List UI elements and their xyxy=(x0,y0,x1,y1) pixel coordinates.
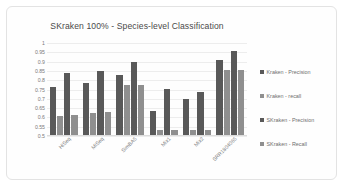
legend-label: SKraken - Precision xyxy=(267,117,315,123)
y-axis-tick-label: 0.5 xyxy=(38,134,45,139)
bar xyxy=(131,62,137,136)
bar-group xyxy=(180,43,213,136)
bar xyxy=(97,71,103,136)
chart-legend: Kraken - PrecisionKraken - recallSKraken… xyxy=(260,67,344,163)
y-axis-tick-label: 0.75 xyxy=(35,87,45,92)
legend-label: Kraken - Precision xyxy=(267,69,311,75)
y-axis-tick-label: 0.8 xyxy=(38,78,45,83)
x-axis-label-text: SRR1804065 xyxy=(211,136,238,163)
chart-title: SKraken 100% - Species-level Classificat… xyxy=(7,21,267,31)
bar xyxy=(216,60,222,136)
bar xyxy=(224,70,230,136)
bar xyxy=(238,70,244,136)
bar xyxy=(116,75,122,136)
bar-group xyxy=(114,43,147,136)
bar xyxy=(197,92,203,136)
y-axis-tick-label: 0.85 xyxy=(35,68,45,73)
x-axis-label-text: HiSeq xyxy=(57,136,71,150)
x-axis-category-labels: HiSeqMiSeqSimBA5Mix1Mix2SRR1804065 xyxy=(47,137,247,183)
bar-group xyxy=(147,43,180,136)
legend-item[interactable]: SKraken - Recall xyxy=(260,141,307,147)
legend-item[interactable]: SKraken - Precision xyxy=(260,117,314,123)
y-axis-tick-label: 0.6 xyxy=(38,115,45,120)
bar xyxy=(50,87,56,136)
legend-item[interactable]: Kraken - Precision xyxy=(260,69,311,75)
bar xyxy=(90,113,96,136)
y-axis-tick-label: 0.95 xyxy=(35,50,45,55)
y-axis-tick-label: 1 xyxy=(42,41,45,46)
legend-label: Kraken - recall xyxy=(267,93,302,99)
legend-item[interactable]: Kraken - recall xyxy=(260,93,301,99)
x-axis-label-text: Mix1 xyxy=(159,136,171,148)
x-axis-label-text: SimBA5 xyxy=(120,136,138,154)
y-axis-tick-label: 0.65 xyxy=(35,106,45,111)
bar xyxy=(64,73,70,136)
y-axis-tick-label: 0.9 xyxy=(38,59,45,64)
bar xyxy=(231,51,237,136)
legend-swatch-icon xyxy=(260,94,264,98)
bar-group xyxy=(80,43,113,136)
legend-swatch-icon xyxy=(260,118,264,122)
legend-label: SKraken - Recall xyxy=(267,141,307,147)
chart-card: SKraken 100% - Species-level Classificat… xyxy=(6,6,337,180)
bar xyxy=(164,89,170,136)
bar-group xyxy=(214,43,247,136)
y-axis-tick-labels: 10.950.90.850.80.750.70.650.60.550.5 xyxy=(25,40,45,136)
x-axis-label-text: MiSeq xyxy=(90,136,105,151)
x-axis-label-text: Mix2 xyxy=(193,136,205,148)
bar xyxy=(183,99,189,136)
bar xyxy=(57,116,63,136)
y-axis-tick-label: 0.55 xyxy=(35,124,45,129)
legend-swatch-icon xyxy=(260,70,264,74)
legend-swatch-icon xyxy=(260,142,264,146)
bar xyxy=(150,111,156,136)
bar xyxy=(124,85,130,136)
bar xyxy=(83,83,89,136)
plot-area xyxy=(47,43,247,136)
bar-group xyxy=(47,43,80,136)
y-axis-tick-label: 0.7 xyxy=(38,96,45,101)
